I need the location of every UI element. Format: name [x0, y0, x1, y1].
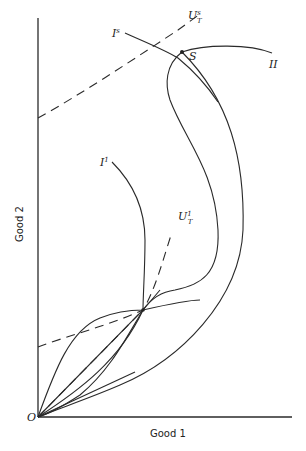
label-I1: I1 [99, 156, 109, 169]
label-II: II [268, 58, 278, 71]
label-UT1: U1T [178, 210, 194, 226]
label-S: S [189, 50, 197, 63]
origin-label: O [27, 411, 36, 424]
indifference-curve-Is [125, 33, 218, 102]
offer-curve-lower [38, 300, 200, 417]
label-Is: Is [111, 27, 120, 40]
offer-curve-outer [38, 52, 243, 417]
y-axis-label: Good 2 [14, 206, 25, 242]
point-S-dot [180, 50, 184, 54]
offer-curve-inner [38, 52, 218, 417]
utility-line-UT1 [38, 232, 172, 347]
tangency-dot [141, 308, 145, 312]
offer-curve-diagram: Is S II UsT I1 U1T O Good 1 Good 2 [0, 0, 306, 451]
label-UTs: UsT [188, 9, 203, 25]
x-axis-label: Good 1 [150, 428, 186, 439]
indifference-curve-I1 [38, 162, 145, 417]
